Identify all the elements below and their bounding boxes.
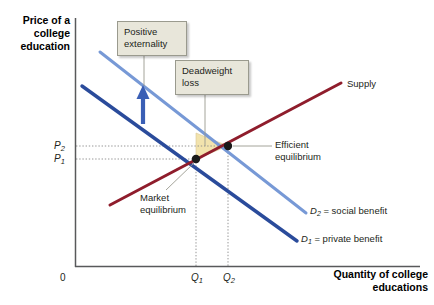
tick-label-p2: P2 (54, 140, 65, 152)
d2-base: D (310, 205, 317, 216)
tick-q1-base: Q (191, 272, 199, 283)
d1-rest: = private benefit (312, 233, 383, 244)
callout-deadweight-loss: Deadweight loss (175, 60, 249, 95)
d2-rest: = social benefit (321, 205, 387, 216)
demand-private-curve-label: D1 = private benefit (301, 233, 382, 245)
efficient-equilibrium-label: Efficient equilibrium (275, 139, 349, 162)
x-axis-title: Quantity of college educations (318, 268, 428, 294)
d1-base: D (301, 233, 308, 244)
tick-p2-base: P (54, 140, 61, 151)
d1-sub: 1 (308, 238, 312, 245)
tick-q2-base: Q (223, 272, 231, 283)
tick-label-p1: P1 (54, 153, 65, 165)
market-equilibrium-point (192, 155, 200, 163)
supply-curve-label: Supply (347, 78, 376, 90)
tick-p2-sub: 2 (61, 144, 65, 153)
demand-social-curve-label: D2 = social benefit (310, 205, 387, 217)
callout-positive-externality: Positive externality (117, 21, 187, 56)
tick-q2-sub: 2 (231, 276, 235, 285)
economics-diagram-positive-externality: Price of a college education Quantity of… (0, 0, 434, 305)
market-equilibrium-label: Market equilibrium (140, 192, 214, 215)
tick-label-q1: Q1 (191, 272, 203, 284)
tick-q1-sub: 1 (199, 276, 203, 285)
origin-label: 0 (60, 272, 66, 284)
tick-p1-sub: 1 (61, 157, 65, 166)
y-axis-title: Price of a college education (8, 14, 70, 52)
efficient-equilibrium-point (224, 142, 232, 150)
tick-label-q2: Q2 (223, 272, 235, 284)
tick-p1-base: P (54, 153, 61, 164)
d2-sub: 2 (317, 210, 321, 217)
